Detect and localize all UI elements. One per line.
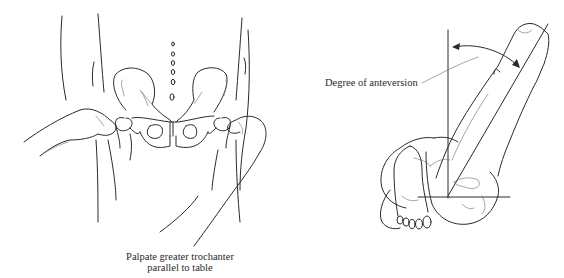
pelvis-illustration <box>0 0 282 278</box>
label-degree-of-anteversion: Degree of anteversion <box>325 77 418 88</box>
arc-arrowhead-right-icon <box>512 59 520 68</box>
caption-line-2: parallel to table <box>95 262 265 273</box>
toes <box>397 216 431 229</box>
panel-palpate-trochanter: Palpate greater trochanter parallel to t… <box>0 0 282 278</box>
leg-axis-line <box>448 24 548 196</box>
caption-palpate-trochanter: Palpate greater trochanter parallel to t… <box>95 251 265 273</box>
label-leader-line <box>422 57 478 83</box>
arc-arrowhead-left-icon <box>452 43 460 50</box>
anteversion-illustration <box>282 0 564 278</box>
caption-line-1: Palpate greater trochanter <box>95 251 265 262</box>
panel-anteversion: Degree of anteversion <box>282 0 564 278</box>
spine-vertebrae <box>170 42 175 100</box>
